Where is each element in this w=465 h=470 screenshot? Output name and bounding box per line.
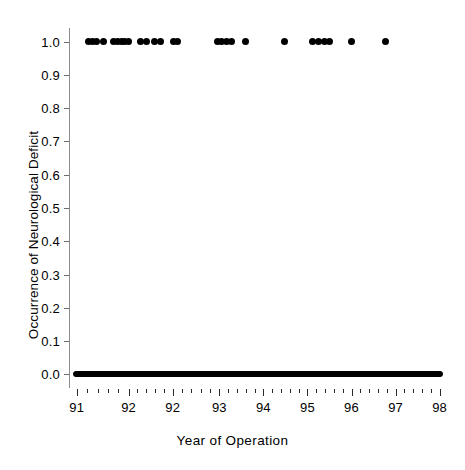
x-axis-title-word-2: of	[209, 433, 221, 448]
x-axis-tick-minor	[290, 389, 291, 393]
data-point-deficit	[174, 38, 181, 45]
x-axis-tick-minor	[281, 389, 282, 393]
x-axis-tick-minor	[137, 389, 138, 393]
x-axis-tick-label: 98	[420, 400, 460, 415]
data-point-deficit	[242, 38, 249, 45]
y-axis-tick-label: 0.4	[10, 234, 60, 249]
x-axis-tick-major	[129, 389, 130, 396]
x-axis-tick-minor	[343, 389, 344, 393]
x-axis-tick-minor	[237, 389, 238, 393]
x-axis-tick-minor	[431, 389, 432, 393]
x-axis-tick-minor	[325, 389, 326, 393]
x-axis-tick-major	[352, 389, 353, 396]
data-point-deficit	[157, 38, 164, 45]
x-axis-tick-label: 97	[376, 400, 416, 415]
x-axis-tick-minor	[228, 389, 229, 393]
x-axis-tick-label: 91	[57, 400, 97, 415]
x-axis-tick-minor	[255, 389, 256, 393]
data-point-deficit	[326, 38, 333, 45]
y-axis-tick-label: 0.0	[10, 367, 60, 382]
data-point-deficit	[348, 38, 355, 45]
x-axis-tick-minor	[369, 389, 370, 393]
x-axis-tick-minor	[413, 389, 414, 393]
x-axis-tick-minor	[422, 389, 423, 393]
data-point-deficit	[382, 38, 389, 45]
data-point-no-deficit	[436, 371, 443, 377]
x-axis-tick-minor	[360, 389, 361, 393]
x-axis-tick-label: 94	[243, 400, 283, 415]
x-axis-tick-minor	[201, 389, 202, 393]
x-axis-tick-minor	[191, 389, 192, 393]
x-axis-tick-minor	[246, 389, 247, 393]
x-axis-tick-major	[219, 389, 220, 396]
x-axis-tick-minor	[404, 389, 405, 393]
x-axis-tick-major	[77, 389, 78, 396]
x-axis-title-word-1: Year	[177, 433, 206, 448]
x-axis-tick-major	[263, 389, 264, 396]
x-axis-tick-minor	[378, 389, 379, 393]
x-axis-title: YearofOperation	[0, 433, 465, 448]
data-point-deficit	[93, 38, 100, 45]
y-axis-tick-label: 0.1	[10, 334, 60, 349]
x-axis-tick-label: 92	[153, 400, 193, 415]
x-axis-tick-minor	[155, 389, 156, 393]
y-axis-tick-label: 0.7	[10, 134, 60, 149]
y-axis-tick-label: 0.6	[10, 167, 60, 182]
x-axis-tick-minor	[182, 389, 183, 393]
x-axis-tick-major	[440, 389, 441, 396]
x-axis-tick-label: 93	[199, 400, 239, 415]
y-axis-tick-label: 0.9	[10, 67, 60, 82]
x-axis-tick-major	[396, 389, 397, 396]
y-axis-tick-label: 0.2	[10, 300, 60, 315]
x-axis-tick-minor	[272, 389, 273, 393]
x-axis-tick-minor	[98, 389, 99, 393]
x-axis-tick-minor	[210, 389, 211, 393]
y-axis-tick-label: 1.0	[10, 34, 60, 49]
x-axis-tick-minor	[387, 389, 388, 393]
x-axis-tick-minor	[118, 389, 119, 393]
x-axis-tick-label: 96	[332, 400, 372, 415]
data-point-deficit	[143, 38, 150, 45]
x-axis-tick-minor	[108, 389, 109, 393]
x-axis-tick-label: 92	[109, 400, 149, 415]
data-point-deficit	[228, 38, 235, 45]
data-point-deficit	[125, 38, 132, 45]
y-axis-tick-label: 0.5	[10, 201, 60, 216]
x-axis-tick-minor	[87, 389, 88, 393]
x-axis-title-word-3: Operation	[226, 433, 289, 448]
x-axis-tick-major	[307, 389, 308, 396]
data-point-deficit	[281, 38, 288, 45]
x-axis-tick-minor	[164, 389, 165, 393]
y-axis-tick-label: 0.8	[10, 101, 60, 116]
x-axis-tick-major	[173, 389, 174, 396]
x-axis-tick-minor	[316, 389, 317, 393]
plot-area	[69, 30, 450, 386]
data-point-deficit	[100, 38, 107, 45]
x-axis-tick-label: 95	[287, 400, 327, 415]
x-axis-tick-minor	[334, 389, 335, 393]
y-axis-tick-label: 0.3	[10, 267, 60, 282]
x-axis-tick-minor	[146, 389, 147, 393]
x-axis-tick-minor	[299, 389, 300, 393]
scatter-plot-figure: Occurrence of Neurological Deficit 0.00.…	[0, 0, 465, 470]
